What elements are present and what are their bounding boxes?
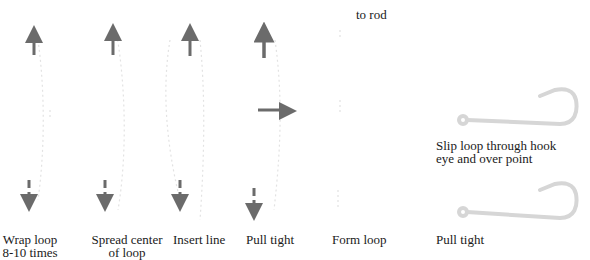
fish-hook-icon <box>459 89 577 124</box>
step-label-pull-tight-1: Pull tight <box>246 233 294 246</box>
faint-line-strands <box>38 30 340 220</box>
step-label-form-loop: Form loop <box>332 233 387 246</box>
step-label-line1: Pull tight <box>246 233 294 246</box>
step-label-line1: Form loop <box>332 233 387 246</box>
step-label-spread: Spread center of loop <box>82 233 172 259</box>
step-label-wrap: Wrap loop 8-10 times <box>0 233 60 259</box>
fish-hook-icon <box>459 183 577 218</box>
step-label-line2: of loop <box>82 246 172 259</box>
to-rod-label: to rod <box>356 8 387 21</box>
step-label-line2: eye and over point <box>436 152 556 165</box>
step-label-insert: Insert line <box>173 233 225 246</box>
step-label-pull-tight-2: Pull tight <box>436 233 484 246</box>
arrow-right-icon <box>258 110 288 111</box>
step-label-line1: Pull tight <box>436 233 484 246</box>
step-label-slip-loop: Slip loop through hook eye and over poin… <box>436 139 556 165</box>
step-label-line2: 8-10 times <box>0 246 60 259</box>
step-label-line1: Insert line <box>173 233 225 246</box>
